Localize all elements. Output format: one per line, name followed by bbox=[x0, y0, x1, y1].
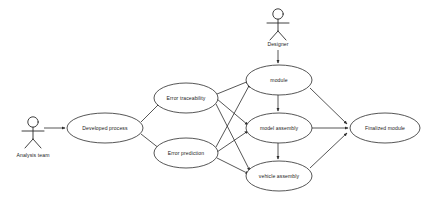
use-case-label: model assembly bbox=[260, 125, 299, 131]
actor-head-icon bbox=[273, 9, 283, 19]
actor-leg-left-icon bbox=[25, 139, 33, 148]
actor-leg-left-icon bbox=[270, 31, 278, 40]
use-case-error-traceability[interactable]: Error traceability bbox=[154, 83, 218, 113]
use-case-finalized-module[interactable]: Finalized module bbox=[350, 113, 420, 143]
actor-leg-right-icon bbox=[278, 31, 286, 40]
edge-error-traceability-to-module bbox=[217, 81, 249, 94]
use-case-developed-process[interactable]: Developed process bbox=[67, 113, 143, 143]
use-case-label: vehicle assembly bbox=[259, 173, 300, 179]
actor-analysis-team-label: Analysis team bbox=[16, 152, 49, 158]
edge-vehicle-assembly-to-finalized-module bbox=[310, 133, 347, 168]
diagram-svg: Analysis team Designer Developed process… bbox=[0, 0, 430, 198]
use-case-diagram-canvas: Analysis team Designer Developed process… bbox=[0, 0, 430, 198]
use-case-module[interactable]: module bbox=[246, 65, 312, 95]
use-case-layer: Developed process Error traceability Err… bbox=[67, 65, 420, 191]
actor-designer[interactable]: Designer bbox=[267, 9, 289, 48]
use-case-label: Finalized module bbox=[365, 125, 405, 131]
actor-analysis-team[interactable]: Analysis team bbox=[16, 117, 49, 159]
use-case-error-prediction[interactable]: Error prediction bbox=[154, 138, 218, 168]
edge-developed-process-to-error-traceability bbox=[141, 103, 160, 122]
use-case-label: Developed process bbox=[82, 125, 128, 131]
use-case-model-assembly[interactable]: model assembly bbox=[246, 113, 312, 143]
edge-error-prediction-to-model-assembly bbox=[217, 131, 248, 152]
use-case-label: module bbox=[270, 77, 287, 83]
use-case-label: Error prediction bbox=[168, 150, 204, 156]
use-case-vehicle-assembly[interactable]: vehicle assembly bbox=[246, 161, 312, 191]
edge-module-to-finalized-module bbox=[310, 88, 347, 124]
actor-designer-label: Designer bbox=[267, 41, 288, 47]
edge-error-traceability-to-model-assembly bbox=[217, 99, 248, 125]
actor-leg-right-icon bbox=[33, 139, 41, 148]
actor-head-icon bbox=[28, 117, 38, 127]
use-case-label: Error traceability bbox=[167, 95, 206, 101]
